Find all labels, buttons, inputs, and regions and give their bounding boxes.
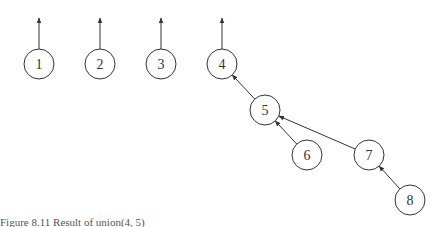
node-6: 6	[292, 140, 322, 170]
node-8: 8	[395, 185, 425, 215]
figure-caption: Figure 8.11 Result of union(4, 5)	[0, 216, 145, 227]
node-4: 4	[207, 49, 237, 79]
node-label: 6	[304, 148, 311, 163]
node-label: 5	[262, 103, 269, 118]
edge-8-to-7	[379, 166, 400, 189]
node-label: 1	[36, 57, 43, 72]
edge-6-to-5	[275, 121, 297, 144]
node-label: 3	[158, 57, 165, 72]
node-label: 8	[407, 193, 414, 208]
edge-5-to-4	[232, 75, 255, 99]
node-2: 2	[85, 49, 115, 79]
edges	[39, 18, 400, 189]
node-1: 1	[24, 49, 54, 79]
nodes: 12345678	[24, 49, 425, 215]
node-7: 7	[354, 140, 384, 170]
node-3: 3	[146, 49, 176, 79]
node-label: 4	[219, 57, 226, 72]
diagram-canvas: 12345678 Figure 8.11 Result of union(4, …	[0, 0, 439, 227]
node-label: 7	[366, 148, 373, 163]
union-find-forest: 12345678	[0, 0, 439, 227]
node-5: 5	[250, 95, 280, 125]
node-label: 2	[97, 57, 104, 72]
